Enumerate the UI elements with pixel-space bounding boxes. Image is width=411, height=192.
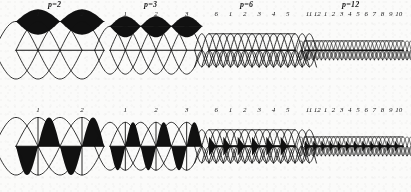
- pole-label: 2: [60, 10, 104, 18]
- pole-label: 3: [252, 106, 266, 114]
- pole-label: 2: [329, 106, 337, 114]
- pole-label: 4: [266, 106, 280, 114]
- panel-p3-top: p=3123: [110, 20, 202, 92]
- pole-label-row: 123: [110, 106, 202, 114]
- pole-label: 1: [321, 106, 329, 114]
- pole-label-row: 111212345678910: [305, 10, 403, 18]
- panel-p12-bottom: 111212345678910: [305, 116, 403, 188]
- pole-label: 7: [370, 106, 378, 114]
- panel-title: p=6: [240, 0, 253, 9]
- pole-label: 5: [354, 10, 362, 18]
- pole-label: 2: [238, 106, 252, 114]
- pole-label: 2: [329, 10, 337, 18]
- panel-drawing: [305, 116, 403, 188]
- pole-label: 6: [209, 10, 223, 18]
- pole-label: 10: [395, 10, 403, 18]
- pole-label: 5: [281, 10, 295, 18]
- panel-drawing: [209, 116, 295, 188]
- panel-drawing: [209, 20, 295, 92]
- panel-drawing: [110, 20, 202, 92]
- panel-drawing: [16, 116, 104, 188]
- panel-drawing: [305, 20, 403, 92]
- panel-p2-top: p=212: [16, 20, 104, 92]
- pole-label: 3: [252, 10, 266, 18]
- pole-label: 2: [238, 10, 252, 18]
- pole-label: 11: [305, 106, 313, 114]
- pole-label: 7: [370, 10, 378, 18]
- pole-label: 3: [338, 106, 346, 114]
- pole-label: 11: [305, 10, 313, 18]
- pole-label-row: 123: [110, 10, 202, 18]
- pole-label: 12: [313, 106, 321, 114]
- pole-label-row: 612345: [209, 10, 295, 18]
- pole-label: 8: [378, 106, 386, 114]
- pole-label: 3: [171, 106, 202, 114]
- panel-p6-bottom: 612345: [209, 116, 295, 188]
- pole-label-row: 12: [16, 10, 104, 18]
- pole-label: 3: [171, 10, 202, 18]
- pole-label: 1: [110, 10, 141, 18]
- pole-label: 9: [387, 106, 395, 114]
- pole-label: 6: [362, 106, 370, 114]
- panel-p12-top: p=12111212345678910: [305, 20, 403, 92]
- pole-label: 1: [16, 106, 60, 114]
- pole-label-row: 12: [16, 106, 104, 114]
- panel-title: p=12: [342, 0, 359, 9]
- figure-sheet: p=212p=3123p=6612345p=121112123456789101…: [0, 0, 411, 192]
- panel-title: p=3: [144, 0, 157, 9]
- pole-label: 1: [321, 10, 329, 18]
- pole-label: 8: [378, 10, 386, 18]
- pole-label-row: 612345: [209, 106, 295, 114]
- pole-label-row: 111212345678910: [305, 106, 403, 114]
- pole-label: 12: [313, 10, 321, 18]
- pole-label: 1: [110, 106, 141, 114]
- pole-label: 2: [141, 10, 172, 18]
- pole-label: 6: [209, 106, 223, 114]
- pole-label: 4: [346, 10, 354, 18]
- panel-p3-bottom: 123: [110, 116, 202, 188]
- panel-title: p=2: [48, 0, 61, 9]
- pole-label: 1: [16, 10, 60, 18]
- pole-label: 4: [346, 106, 354, 114]
- pole-label: 4: [266, 10, 280, 18]
- pole-label: 6: [362, 10, 370, 18]
- pole-label: 5: [281, 106, 295, 114]
- pole-label: 2: [141, 106, 172, 114]
- pole-label: 5: [354, 106, 362, 114]
- pole-label: 2: [60, 106, 104, 114]
- panel-drawing: [110, 116, 202, 188]
- pole-label: 10: [395, 106, 403, 114]
- pole-label: 9: [387, 10, 395, 18]
- panel-p6-top: p=6612345: [209, 20, 295, 92]
- pole-label: 1: [223, 10, 237, 18]
- panel-p2-bottom: 12: [16, 116, 104, 188]
- panel-drawing: [16, 20, 104, 92]
- pole-label: 1: [223, 106, 237, 114]
- pole-label: 3: [338, 10, 346, 18]
